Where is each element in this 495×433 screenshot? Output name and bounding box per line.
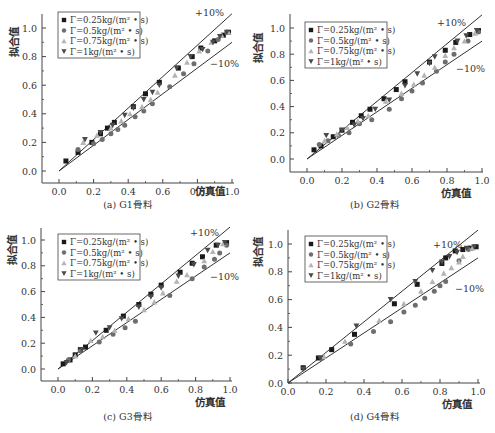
panel-caption: (c) G3骨料 <box>103 411 152 422</box>
scatter-panel-d: 0.00.20.40.60.81.00.00.20.40.60.81.0+10%… <box>252 230 486 422</box>
square-marker-icon <box>329 347 334 352</box>
y-tick-label: 0.2 <box>21 338 36 349</box>
circle-marker-icon <box>443 279 448 284</box>
panel-caption: (d) G4骨料 <box>350 411 400 422</box>
triangle-down-marker-icon <box>402 83 408 88</box>
x-tick-label: 0.0 <box>299 175 314 186</box>
triangle-up-marker-icon <box>174 278 180 283</box>
x-axis-label: 仿真值 <box>195 185 226 197</box>
square-marker-icon <box>104 328 109 333</box>
triangle-up-marker-icon <box>160 290 166 295</box>
circle-marker-icon <box>181 71 186 76</box>
triangle-up-marker-icon <box>365 113 371 118</box>
circle-marker-icon <box>115 127 120 132</box>
plus-10-percent-label: +10% <box>433 239 462 250</box>
triangle-down-marker-icon <box>351 122 357 127</box>
x-tick-label: 0.0 <box>50 384 65 395</box>
circle-marker-icon <box>217 250 222 255</box>
legend-entry-label: Γ=0.5kg/(m² • s) <box>317 36 390 46</box>
y-tick-label: 0.0 <box>22 166 37 177</box>
triangle-up-marker-icon <box>418 288 424 293</box>
triangle-down-marker-icon <box>414 71 420 76</box>
triangle-down-marker-icon <box>205 248 211 253</box>
circle-marker-icon <box>410 88 415 93</box>
panel-caption: (a) G1骨料 <box>103 199 153 210</box>
legend-entry-label: Γ=0.75kg/(m² • s) <box>70 258 148 268</box>
square-marker-icon <box>460 247 465 252</box>
x-tick-label: 0.6 <box>155 186 170 197</box>
circle-marker-icon <box>190 276 195 281</box>
figure-panels: 0.00.20.40.60.81.00.00.20.40.60.81.0+10%… <box>6 7 490 422</box>
circle-marker-icon <box>133 319 138 324</box>
square-marker-icon <box>62 18 66 22</box>
triangle-up-marker-icon <box>411 81 417 86</box>
x-tick-label: 1.0 <box>222 384 237 395</box>
x-tick-label: 0.4 <box>369 175 384 186</box>
circle-marker-icon <box>123 325 128 330</box>
y-axis-label: 拟合值 <box>252 32 264 63</box>
triangle-down-marker-icon <box>93 330 99 335</box>
triangle-down-marker-icon <box>430 268 436 273</box>
triangle-up-marker-icon <box>118 118 124 123</box>
minus-10-percent-line <box>59 42 232 171</box>
circle-marker-icon <box>122 123 127 128</box>
y-tick-label: 1.0 <box>270 23 285 34</box>
square-marker-icon <box>309 28 313 32</box>
triangle-up-marker-icon <box>139 104 145 109</box>
square-marker-icon <box>443 48 448 53</box>
triangle-down-marker-icon <box>432 54 438 59</box>
square-marker-icon <box>368 107 373 112</box>
circle-marker-icon <box>108 131 113 136</box>
circle-marker-icon <box>399 96 404 101</box>
circle-marker-icon <box>141 108 146 113</box>
triangle-up-marker-icon <box>148 97 154 102</box>
circle-marker-icon <box>205 48 210 53</box>
y-tick-label: 0.0 <box>270 154 285 165</box>
figure-canvas: 0.00.20.40.60.81.00.00.20.40.60.81.0+10%… <box>0 0 495 433</box>
circle-marker-icon <box>150 101 155 106</box>
triangle-up-marker-icon <box>432 64 438 69</box>
circle-marker-icon <box>133 114 138 119</box>
x-tick-label: 0.2 <box>85 384 100 395</box>
triangle-up-marker-icon <box>184 272 190 277</box>
triangle-up-marker-icon <box>430 279 436 284</box>
legend: Γ=0.25kg/(m² • s)Γ=0.5kg/(m² • s)Γ=0.75k… <box>305 236 395 282</box>
panel-caption: (b) G2骨料 <box>350 199 400 210</box>
circle-marker-icon <box>62 28 66 32</box>
plus-10-percent-label: +10% <box>437 17 466 28</box>
legend-entry-label: Γ=0.25kg/(m² • s) <box>70 237 148 247</box>
y-tick-label: 0.8 <box>21 260 36 271</box>
scatter-panel-a: 0.00.20.40.60.81.00.00.20.40.60.81.0+10%… <box>8 7 240 210</box>
legend-entry-label: Γ=0.25kg/(m² • s) <box>317 239 395 249</box>
triangle-up-marker-icon <box>112 327 118 332</box>
y-tick-label: 0.4 <box>270 101 285 112</box>
square-marker-icon <box>392 301 397 306</box>
circle-marker-icon <box>443 60 448 65</box>
minus-10-percent-label: −10% <box>455 283 484 294</box>
legend-entry-label: Γ=0.75kg/(m² • s) <box>317 46 395 56</box>
circle-marker-icon <box>202 265 207 270</box>
x-axis-label: 仿真值 <box>442 398 473 410</box>
circle-marker-icon <box>97 339 102 344</box>
y-tick-label: 0.8 <box>268 266 283 277</box>
triangle-up-marker-icon <box>451 45 457 50</box>
triangle-up-marker-icon <box>210 249 216 254</box>
circle-marker-icon <box>191 61 196 66</box>
triangle-down-marker-icon <box>141 97 147 102</box>
triangle-up-marker-icon <box>460 254 466 259</box>
y-tick-label: 0.6 <box>268 294 283 305</box>
triangle-up-marker-icon <box>449 265 455 270</box>
circle-marker-icon <box>388 319 393 324</box>
triangle-up-marker-icon <box>442 53 448 58</box>
circle-marker-icon <box>420 81 425 86</box>
square-marker-icon <box>352 332 357 337</box>
x-tick-label: 0.2 <box>334 175 349 186</box>
x-tick-label: 0.0 <box>280 386 295 397</box>
circle-marker-icon <box>212 257 217 262</box>
legend: Γ=0.25kg/(m² • s)Γ=0.5kg/(m² • s)Γ=0.75k… <box>58 12 148 58</box>
square-marker-icon <box>394 87 399 92</box>
circle-marker-icon <box>167 293 172 298</box>
y-axis-label: 拟合值 <box>252 236 264 267</box>
triangle-up-marker-icon <box>126 316 132 321</box>
triangle-up-marker-icon <box>401 301 407 306</box>
